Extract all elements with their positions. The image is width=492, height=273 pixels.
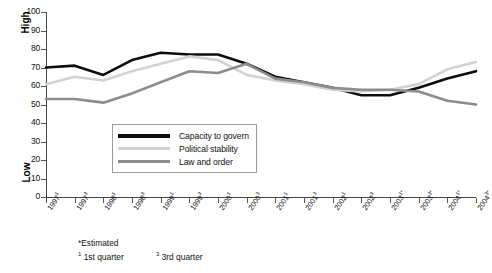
- chart-footnotes: *Estimated 1 1st quarter3 3rd quarter: [78, 238, 203, 263]
- legend-item: Capacity to govern: [118, 129, 249, 142]
- legend-label: Capacity to govern: [179, 131, 249, 141]
- line-chart: High Low 1009080706050403020100 19971199…: [0, 0, 492, 273]
- legend-label: Law and order: [179, 157, 233, 167]
- legend-item: Law and order: [118, 155, 249, 168]
- footnote-quarters: 1 1st quarter3 3rd quarter: [78, 249, 203, 263]
- footnote-q1: 1 1st quarter: [78, 249, 156, 263]
- legend-swatch-icon: [118, 134, 170, 138]
- series-line-capacity-to-govern: [46, 53, 476, 96]
- footnote-q1-text: 1st quarter: [84, 252, 124, 262]
- legend-swatch-icon: [118, 160, 170, 163]
- chart-legend: Capacity to governPolitical stabilityLaw…: [112, 124, 257, 173]
- legend-item: Political stability: [118, 142, 249, 155]
- footnote-q3-text: 3rd quarter: [162, 252, 203, 262]
- legend-label: Political stability: [179, 144, 238, 154]
- footnote-q3-mark: 3: [156, 251, 159, 257]
- footnote-q1-mark: 1: [78, 251, 81, 257]
- series-line-political-stability: [46, 56, 476, 91]
- footnote-estimated: *Estimated: [78, 238, 203, 249]
- legend-swatch-icon: [118, 147, 170, 150]
